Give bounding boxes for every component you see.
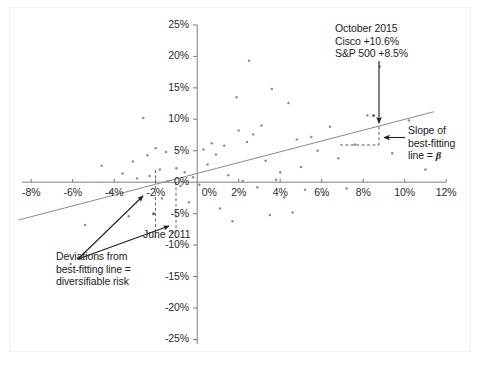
- deviations-line3: diversifiable risk: [56, 275, 131, 288]
- scatter-point: [329, 126, 332, 129]
- scatter-point: [231, 220, 234, 223]
- deviations-annotation: Deviations from best-fitting line = dive…: [56, 250, 131, 288]
- scatter-point: [354, 143, 357, 146]
- y-tick-label: 20%: [147, 49, 189, 61]
- scatter-point: [246, 141, 249, 144]
- y-tick-label: -15%: [147, 270, 189, 282]
- scatter-points: [69, 60, 426, 266]
- slope-line3-prefix: line =: [408, 149, 436, 161]
- scatter-point: [275, 178, 278, 181]
- scatter-point: [235, 96, 238, 99]
- scatter-plot-canvas: [0, 0, 483, 367]
- y-tick-label: 15%: [147, 81, 189, 93]
- chart-page: 25%20%15%10%5%0%-5%-10%-15%-20%-25% -8%-…: [0, 0, 483, 367]
- scatter-point: [310, 136, 313, 139]
- october-2015-annotation: October 2015 Cisco +10.6% S&P 500 +8.5%: [335, 22, 408, 60]
- scatter-point: [366, 114, 369, 117]
- scatter-point: [219, 207, 222, 210]
- scatter-point: [84, 224, 87, 227]
- slope-line2: best-fitting: [408, 137, 455, 150]
- x-tick-label: 2%: [219, 186, 259, 198]
- slope-line1: Slope of: [408, 124, 455, 137]
- scatter-point: [121, 172, 124, 175]
- x-tick-label: -8%: [11, 186, 51, 198]
- october-2015-line2: Cisco +10.6%: [335, 35, 408, 48]
- x-tick-label: -2%: [136, 186, 176, 198]
- scatter-point: [127, 215, 130, 218]
- scatter-point: [184, 171, 187, 174]
- y-tick-label: -25%: [147, 332, 189, 344]
- october-2015-line3: S&P 500 +8.5%: [335, 47, 408, 60]
- scatter-point: [132, 160, 135, 163]
- slope-line3: line = β: [408, 149, 455, 163]
- scatter-point: [424, 168, 427, 171]
- x-tick-label: 10%: [385, 186, 425, 198]
- scatter-point: [269, 214, 272, 217]
- scatter-point: [202, 148, 205, 151]
- scatter-point: [101, 165, 104, 168]
- scatter-point: [264, 160, 267, 163]
- deviations-line1: Deviations from: [56, 250, 131, 263]
- scatter-point: [242, 180, 245, 183]
- scatter-point: [188, 201, 191, 204]
- scatter-point: [237, 129, 240, 132]
- scatter-point: [210, 142, 213, 145]
- scatter-point: [391, 152, 394, 155]
- scatter-point: [142, 117, 145, 120]
- scatter-point: [215, 153, 218, 156]
- scatter-point: [260, 124, 263, 127]
- june-2011-annotation: June 2011: [143, 228, 190, 241]
- y-tick-label: -5%: [147, 207, 189, 219]
- x-tick-label: 12%: [426, 186, 466, 198]
- scatter-point: [159, 168, 162, 171]
- scatter-point: [296, 138, 299, 141]
- x-tick-label: -4%: [94, 186, 134, 198]
- scatter-point: [300, 166, 303, 169]
- x-tick-label: 4%: [260, 186, 300, 198]
- slope-triangle: [340, 127, 379, 146]
- scatter-point: [175, 167, 178, 170]
- scatter-point: [223, 144, 226, 147]
- scatter-point: [227, 174, 230, 177]
- scatter-point: [206, 163, 209, 166]
- x-tick-label: 8%: [343, 186, 383, 198]
- x-tick-label: -6%: [53, 186, 93, 198]
- slope-annotation: Slope of best-fitting line = β: [408, 124, 455, 163]
- beta-symbol: β: [436, 150, 441, 161]
- scatter-point: [291, 211, 294, 214]
- scatter-point: [337, 157, 340, 160]
- scatter-point: [408, 119, 411, 122]
- best-fitting-line: [19, 112, 434, 220]
- scatter-point: [192, 176, 195, 179]
- x-axis-ticks: [31, 179, 446, 182]
- y-tick-label: 25%: [147, 18, 189, 30]
- scatter-point: [287, 102, 290, 105]
- scatter-point-october-2015: [372, 114, 375, 117]
- scatter-point: [136, 177, 139, 180]
- october-2015-line1: October 2015: [335, 22, 408, 35]
- y-tick-label: 5%: [147, 144, 189, 156]
- scatter-point: [316, 150, 319, 153]
- axes-group: [22, 25, 446, 344]
- y-tick-label: -20%: [147, 301, 189, 313]
- scatter-point: [279, 171, 282, 174]
- scatter-point: [248, 60, 251, 63]
- deviations-line2: best-fitting line =: [56, 263, 131, 276]
- scatter-point: [271, 88, 274, 91]
- x-tick-label: 6%: [302, 186, 342, 198]
- y-tick-label: 10%: [147, 112, 189, 124]
- scatter-point: [252, 133, 255, 136]
